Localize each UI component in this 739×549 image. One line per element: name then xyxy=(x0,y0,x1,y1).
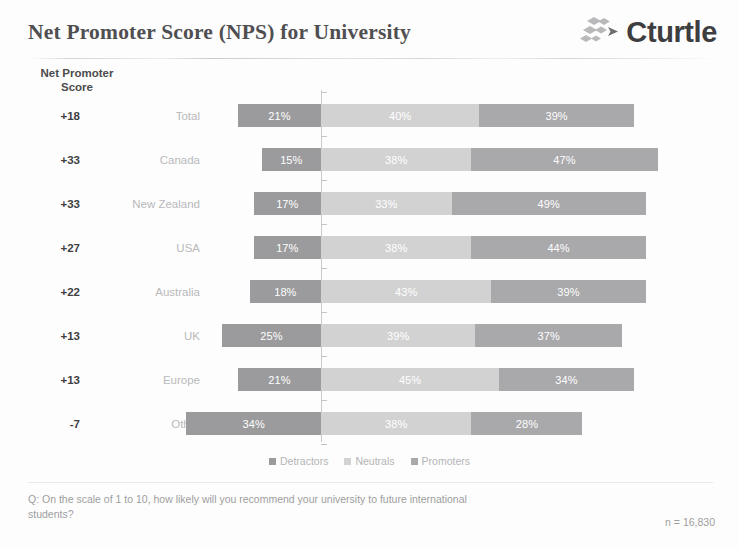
bar-segment-value: 21% xyxy=(268,110,290,122)
bar-segment-neutrals: 38% xyxy=(321,148,471,171)
nps-score-value: -7 xyxy=(28,418,80,430)
slide-header: Net Promoter Score (NPS) for University … xyxy=(0,0,739,62)
sample-size-label: n = 16,830 xyxy=(665,516,715,528)
bar-segment-value: 28% xyxy=(516,418,538,430)
nps-score-value: +27 xyxy=(28,242,80,254)
legend-swatch-icon xyxy=(411,458,418,465)
bar-segment-promoters: 47% xyxy=(471,148,657,171)
nps-score-value: +18 xyxy=(28,110,80,122)
nps-score-value: +13 xyxy=(28,374,80,386)
slide-canvas: Net Promoter Score (NPS) for University … xyxy=(0,0,739,549)
category-label: Total xyxy=(92,110,200,122)
bar-segment-promoters: 44% xyxy=(471,236,645,259)
chart-legend: DetractorsNeutralsPromoters xyxy=(0,455,739,467)
bar-segment-value: 34% xyxy=(555,374,577,386)
bar-segment-value: 47% xyxy=(553,154,575,166)
category-label: UK xyxy=(92,330,200,342)
bar-segment-promoters: 28% xyxy=(471,412,582,435)
cturtle-diamonds-logo-icon xyxy=(579,16,619,48)
bar-segment-value: 33% xyxy=(375,198,397,210)
category-label: USA xyxy=(92,242,200,254)
bar-segment-promoters: 39% xyxy=(479,104,633,127)
bar-segment-value: 17% xyxy=(276,242,298,254)
bar-segment-detractors: 34% xyxy=(186,412,321,435)
bar-segment-value: 38% xyxy=(385,154,407,166)
bar-segment-promoters: 49% xyxy=(452,192,646,215)
brand-logo-text: Cturtle xyxy=(626,18,717,47)
chart-row: +13UK25%39%37% xyxy=(0,318,739,362)
footer-divider xyxy=(28,482,713,483)
bar-segment-value: 38% xyxy=(385,242,407,254)
nps-score-value: +33 xyxy=(28,154,80,166)
legend-swatch-icon xyxy=(344,458,351,465)
bar-segment-value: 44% xyxy=(547,242,569,254)
legend-item[interactable]: Promoters xyxy=(411,455,470,467)
bar-segment-value: 25% xyxy=(260,330,282,342)
category-label: Canada xyxy=(92,154,200,166)
stacked-bar: 18%43%39% xyxy=(250,280,646,303)
bar-segment-detractors: 17% xyxy=(254,236,321,259)
chart-row: -7Other34%38%28% xyxy=(0,406,739,450)
bar-segment-value: 45% xyxy=(399,374,421,386)
bar-segment-value: 39% xyxy=(557,286,579,298)
stacked-bar: 34%38%28% xyxy=(186,412,582,435)
stacked-bar: 25%39%37% xyxy=(222,324,622,347)
bar-segment-promoters: 34% xyxy=(499,368,634,391)
bar-segment-promoters: 39% xyxy=(491,280,645,303)
nps-score-value: +22 xyxy=(28,286,80,298)
brand-logo: Cturtle xyxy=(579,16,717,48)
bar-segment-promoters: 37% xyxy=(475,324,622,347)
chart-row: +22Australia18%43%39% xyxy=(0,274,739,318)
stacked-bar: 17%33%49% xyxy=(254,192,646,215)
stacked-bar: 21%45%34% xyxy=(238,368,634,391)
bar-segment-neutrals: 39% xyxy=(321,324,475,347)
bar-segment-value: 17% xyxy=(276,198,298,210)
chart-row: +18Total21%40%39% xyxy=(0,98,739,142)
chart-row: +33New Zealand17%33%49% xyxy=(0,186,739,230)
bar-segment-detractors: 25% xyxy=(222,324,321,347)
chart-plot-area: +18Total21%40%39%+33Canada15%38%47%+33Ne… xyxy=(0,90,739,445)
bar-segment-value: 21% xyxy=(268,374,290,386)
bar-segment-value: 49% xyxy=(538,198,560,210)
stacked-bar: 17%38%44% xyxy=(254,236,646,259)
bar-segment-neutrals: 33% xyxy=(321,192,452,215)
category-label: Europe xyxy=(92,374,200,386)
bar-segment-value: 38% xyxy=(385,418,407,430)
bar-segment-neutrals: 40% xyxy=(321,104,479,127)
bar-segment-neutrals: 38% xyxy=(321,412,471,435)
survey-question-text: Q: On the scale of 1 to 10, how likely w… xyxy=(28,492,488,522)
legend-item[interactable]: Neutrals xyxy=(344,455,394,467)
legend-label: Neutrals xyxy=(355,455,394,467)
page-title: Net Promoter Score (NPS) for University xyxy=(28,20,411,45)
chart-row: +13Europe21%45%34% xyxy=(0,362,739,406)
bar-segment-neutrals: 38% xyxy=(321,236,471,259)
header-divider xyxy=(30,58,720,59)
bar-segment-neutrals: 45% xyxy=(321,368,499,391)
stacked-bar: 15%38%47% xyxy=(262,148,658,171)
bar-segment-detractors: 21% xyxy=(238,104,321,127)
bar-segment-value: 39% xyxy=(387,330,409,342)
stacked-bar: 21%40%39% xyxy=(238,104,634,127)
legend-swatch-icon xyxy=(269,458,276,465)
bar-segment-detractors: 21% xyxy=(238,368,321,391)
bar-segment-value: 18% xyxy=(274,286,296,298)
legend-item[interactable]: Detractors xyxy=(269,455,328,467)
axis-caption-line-1: Net Promoter xyxy=(18,66,136,80)
legend-label: Promoters xyxy=(422,455,470,467)
legend-label: Detractors xyxy=(280,455,328,467)
category-label: New Zealand xyxy=(92,198,200,210)
bar-segment-detractors: 18% xyxy=(250,280,321,303)
bar-segment-value: 34% xyxy=(243,418,265,430)
axis-tick xyxy=(321,92,327,93)
nps-score-value: +13 xyxy=(28,330,80,342)
bar-segment-detractors: 15% xyxy=(262,148,321,171)
chart-row: +27USA17%38%44% xyxy=(0,230,739,274)
category-label: Other xyxy=(92,418,200,430)
bar-segment-value: 15% xyxy=(280,154,302,166)
chart-row: +33Canada15%38%47% xyxy=(0,142,739,186)
bar-segment-neutrals: 43% xyxy=(321,280,491,303)
bar-segment-detractors: 17% xyxy=(254,192,321,215)
bar-segment-value: 37% xyxy=(538,330,560,342)
nps-score-value: +33 xyxy=(28,198,80,210)
bar-segment-value: 39% xyxy=(545,110,567,122)
